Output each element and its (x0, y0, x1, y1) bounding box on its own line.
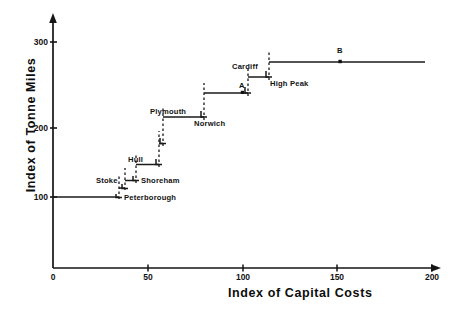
point-b-marker (338, 60, 341, 63)
label-hull: Hull (128, 155, 143, 164)
y-tick-200: 200 (26, 123, 48, 133)
x-tick-200: 200 (423, 272, 441, 282)
label-cardiff: Cardiff (232, 62, 258, 71)
label-shoreham: Shoreham (141, 176, 180, 185)
x-tick-150: 150 (328, 272, 346, 282)
label-stoke: Stoke (96, 176, 118, 185)
y-axis (49, 13, 57, 268)
x-tick-100: 100 (234, 272, 252, 282)
step-chart-svg (0, 0, 453, 318)
label-plymouth: Plymouth (150, 107, 186, 116)
chart-canvas: Index of Capital Costs Index of Tonne Mi… (0, 0, 453, 318)
label-norwich: Norwich (194, 119, 225, 128)
x-tick-0: 0 (44, 272, 62, 282)
cap-peterborough (116, 194, 122, 198)
x-tick-50: 50 (139, 272, 157, 282)
label-peterborough: Peterborough (124, 193, 176, 202)
x-axis-title: Index of Capital Costs (228, 286, 372, 300)
y-tick-300: 300 (26, 37, 48, 47)
label-point-a: A (239, 81, 245, 90)
x-axis (53, 264, 441, 272)
y-tick-100: 100 (26, 192, 48, 202)
label-point-b: B (337, 46, 343, 55)
point-a-marker (241, 91, 244, 94)
label-high-peak: High Peak (270, 79, 309, 88)
